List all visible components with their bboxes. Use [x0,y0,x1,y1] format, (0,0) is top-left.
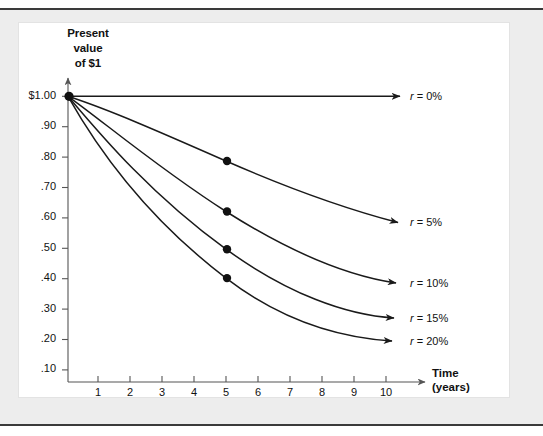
y-axis-ticks [62,96,68,370]
x-tick-label-8: 8 [310,386,334,398]
series-label-r-10-value: = 10% [414,277,449,289]
plot-area [0,0,543,436]
y-tick-label-0-30: .30 [8,302,56,314]
y-tick-label-1-00: $1.00 [8,89,56,101]
marker-r-15-year-5 [223,245,231,253]
series-label-r-5: r = 5% [410,216,442,228]
x-axis-ticks [98,376,386,382]
curve-r-10 [68,96,396,283]
y-tick-label-0-60: .60 [8,210,56,222]
x-tick-label-9: 9 [342,386,366,398]
series-label-r-0: r = 0% [410,90,442,102]
present-value-chart: Present value of $1 Time (years) [0,0,543,436]
x-tick-label-6: 6 [246,386,270,398]
y-tick-label-0-80: .80 [8,150,56,162]
series-label-r-10: r = 10% [410,277,448,289]
series-label-r-15: r = 15% [410,312,448,324]
figure-page: Present value of $1 Time (years) [0,0,543,436]
series-label-r-20-value: = 20% [414,335,449,347]
origin-marker [64,92,73,101]
y-tick-label-0-10: .10 [8,362,56,374]
marker-r-20-year-5 [223,274,231,282]
x-tick-label-3: 3 [150,386,174,398]
curve-r-5 [68,96,398,222]
y-tick-label-0-40: .40 [8,271,56,283]
x-tick-label-4: 4 [182,386,206,398]
series-label-r-20: r = 20% [410,335,448,347]
x-tick-label-1: 1 [86,386,110,398]
x-tick-label-7: 7 [278,386,302,398]
y-tick-label-0-90: .90 [8,119,56,131]
y-tick-label-0-50: .50 [8,241,56,253]
y-tick-label-0-70: .70 [8,180,56,192]
series-label-r-0-value: = 0% [414,90,442,102]
marker-r-10-year-5 [223,207,231,215]
series-label-r-15-value: = 15% [414,312,449,324]
y-tick-label-0-20: .20 [8,332,56,344]
series-label-r-5-value: = 5% [414,216,442,228]
x-tick-label-10: 10 [374,386,398,398]
x-tick-label-5: 5 [214,386,238,398]
x-tick-label-2: 2 [118,386,142,398]
marker-r-5-year-5 [223,157,231,165]
